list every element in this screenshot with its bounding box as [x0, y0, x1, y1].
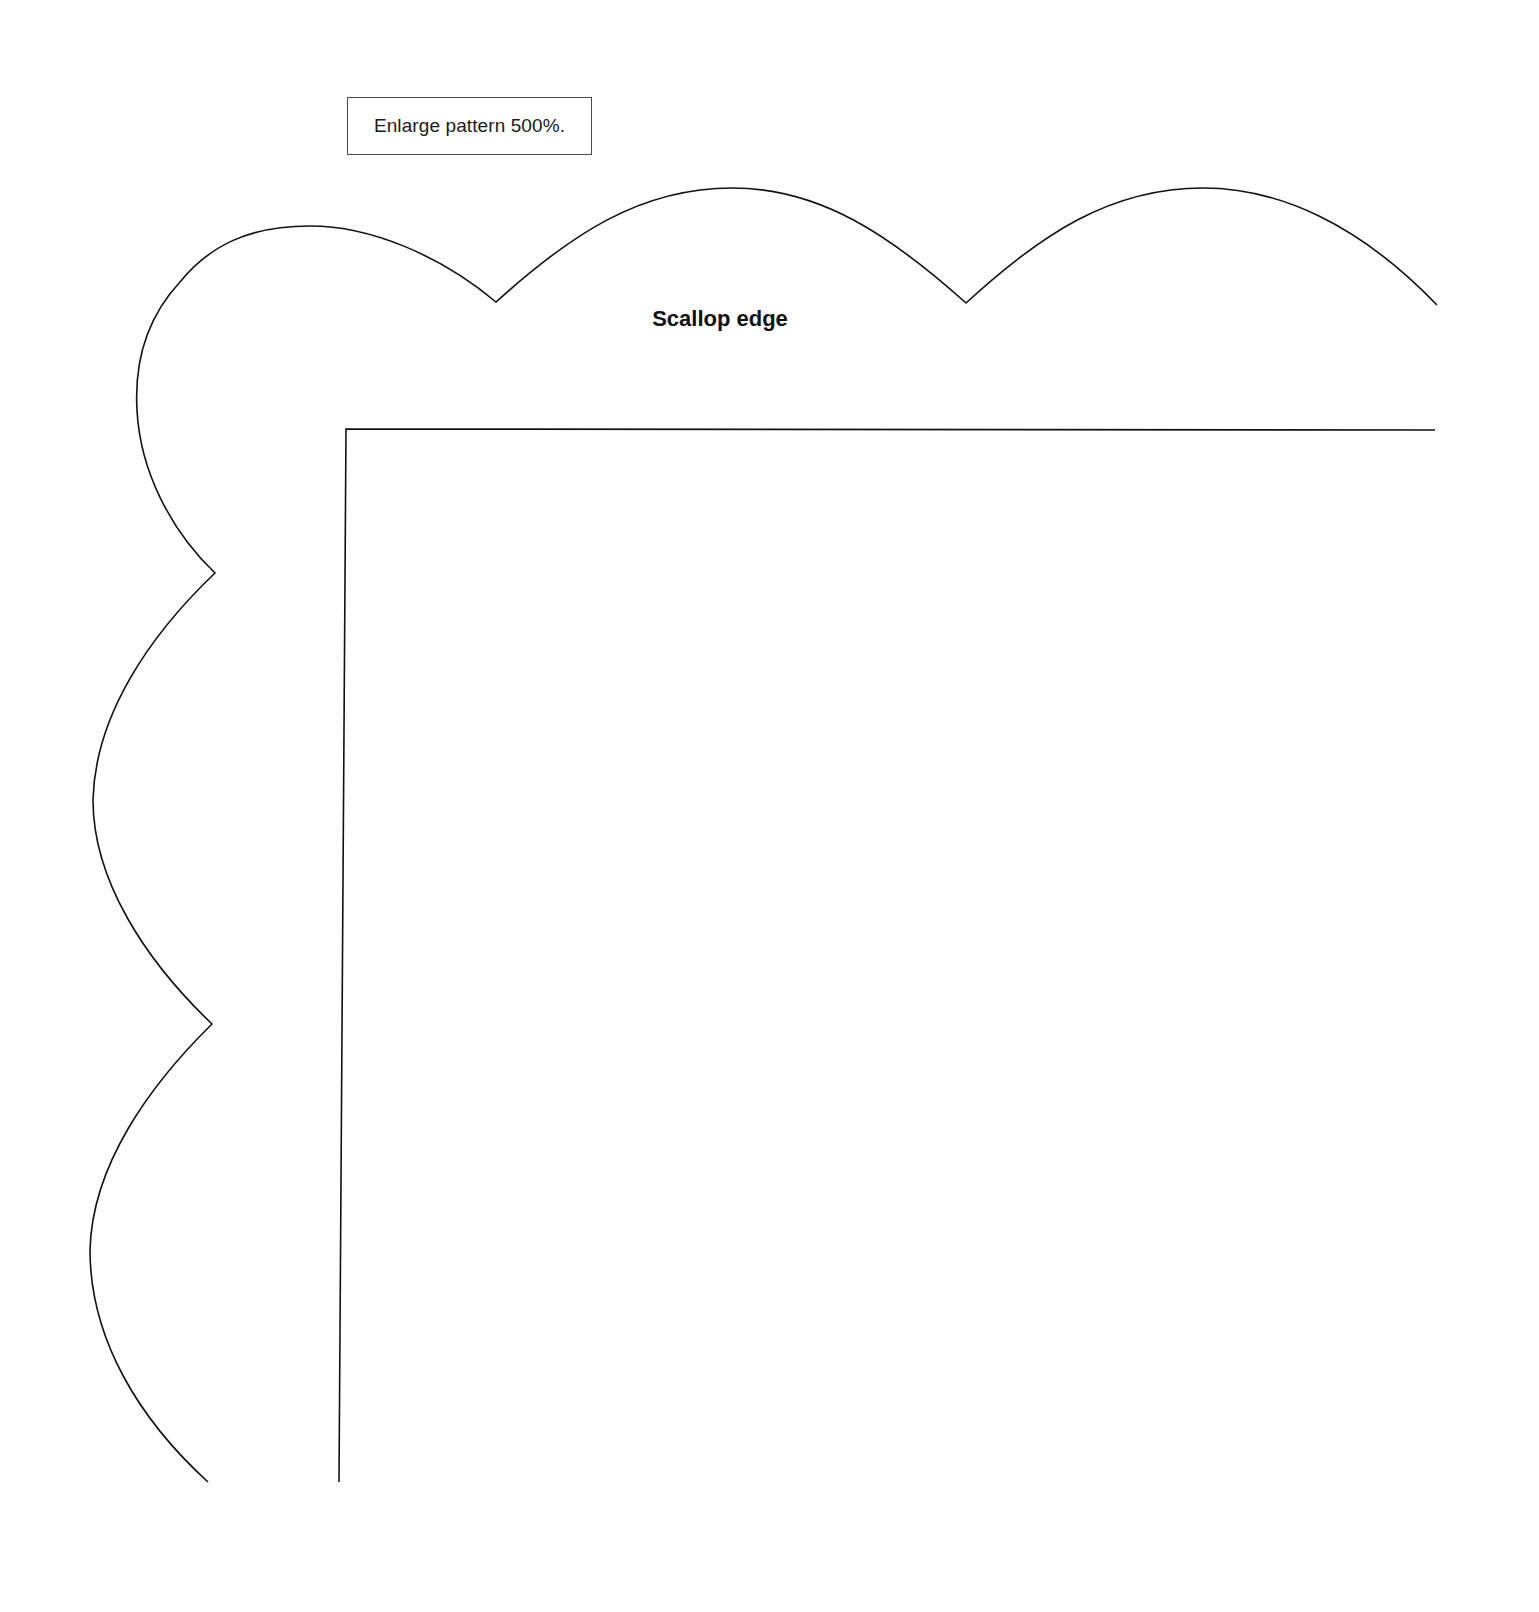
- scallop-edge-label: Scallop edge: [620, 306, 820, 332]
- inner-seam-line: [339, 429, 1435, 1482]
- scallop-pattern-drawing: [0, 0, 1539, 1612]
- scallop-edge-outline: [90, 188, 1437, 1482]
